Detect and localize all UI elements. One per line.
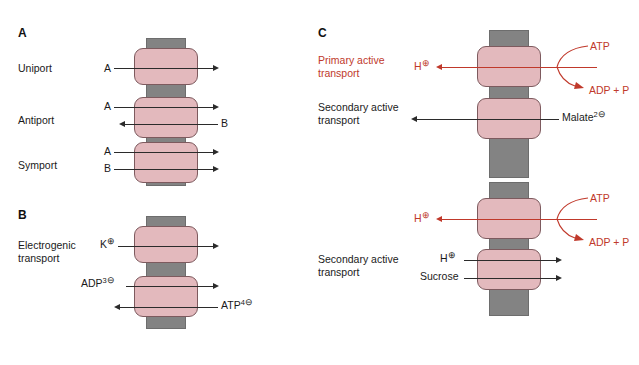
panel-c-label-primary-active: Primary active transport	[318, 54, 385, 79]
transporter-symport	[134, 142, 198, 183]
species-label-atp-bottom: ATP	[590, 192, 610, 204]
species-label-adp: ADP3⊖	[81, 277, 115, 289]
panel-b-letter: B	[18, 208, 27, 222]
panel-b-label-electrogenic: Electrogenic transport	[18, 239, 76, 264]
arrowhead-malate-out	[411, 116, 417, 122]
panel-c-label-secondary-active-top: Secondary active transport	[318, 101, 399, 126]
transporter-adp-atp	[134, 276, 198, 317]
flow-line-symport-a	[114, 152, 213, 153]
arrowhead-atp-out	[114, 304, 120, 310]
transport-mechanisms-figure: A Uniport A Antiport A B Symport A B B E…	[0, 0, 639, 365]
flow-line-antiport-a	[114, 107, 213, 108]
arrowhead-proton-bottom-out	[436, 216, 442, 222]
arrowhead-symport-a-out	[213, 149, 219, 155]
species-label-proton-bottom: H⊕	[414, 212, 430, 224]
species-label-sucrose: Sucrose	[420, 270, 459, 282]
species-label-atp: ATP4⊖	[221, 299, 253, 311]
arrowhead-proton-top-out	[436, 64, 442, 70]
transporter-sucrose-symport	[477, 249, 541, 290]
arrowhead-adp-out	[213, 283, 219, 289]
species-label-symport-a: A	[104, 145, 111, 157]
flow-line-antiport-b	[125, 124, 218, 125]
charge-k: ⊕	[107, 236, 115, 246]
arrowhead-uniport-out	[213, 65, 219, 71]
species-label-antiport-a: A	[104, 100, 111, 112]
panel-a-letter: A	[18, 26, 27, 40]
flow-line-sucrose	[464, 278, 556, 279]
species-h-top-text: H	[414, 60, 422, 72]
flow-line-symport-b	[114, 169, 213, 170]
arrowhead-antiport-b-out	[119, 121, 125, 127]
transporter-antiport	[134, 97, 198, 138]
flow-line-uniport	[114, 68, 213, 69]
panel-c-label-secondary-active-bottom: Secondary active transport	[318, 253, 399, 278]
flow-line-atp	[120, 307, 218, 308]
species-label-potassium: K⊕	[100, 238, 115, 250]
species-malate-text: Malate	[562, 111, 594, 123]
species-atp-text: ATP	[221, 299, 241, 311]
arrowhead-potassium-out	[213, 243, 219, 249]
panel-a-label-uniport: Uniport	[18, 62, 52, 75]
species-h-bottom-text: H	[414, 212, 422, 224]
flow-line-potassium	[118, 246, 213, 247]
species-label-malate: Malate2⊖	[562, 111, 606, 123]
arrowhead-antiport-a-out	[213, 104, 219, 110]
transporter-potassium	[134, 226, 198, 263]
species-label-proton-symport: H⊕	[440, 252, 456, 264]
transporter-uniport	[134, 48, 198, 85]
charge-adp: ⊖	[107, 275, 115, 285]
flow-line-adp	[126, 286, 213, 287]
species-label-adp-top: ADP + P	[589, 84, 629, 96]
arrowhead-symport-b-out	[213, 166, 219, 172]
charge-malate: ⊖	[598, 109, 606, 119]
species-label-uniport-a: A	[104, 62, 111, 74]
species-label-antiport-b: B	[221, 117, 228, 129]
arrowhead-sucrose-out	[556, 275, 562, 281]
charge-h-symport: ⊕	[448, 250, 456, 260]
flow-line-proton-symport	[464, 260, 556, 261]
panel-a-label-antiport: Antiport	[18, 114, 54, 127]
arrowhead-proton-symport-out	[556, 257, 562, 263]
species-label-adp-bottom: ADP + P	[589, 236, 629, 248]
species-h-symport-text: H	[440, 252, 448, 264]
species-label-atp-top: ATP	[590, 40, 610, 52]
panel-c-letter: C	[318, 26, 327, 40]
charge-h-top: ⊕	[422, 58, 430, 68]
charge-h-bottom: ⊕	[422, 210, 430, 220]
flow-line-malate	[417, 119, 559, 120]
panel-a-label-symport: Symport	[18, 159, 57, 172]
species-k-text: K	[100, 238, 107, 250]
species-label-symport-b: B	[104, 162, 111, 174]
species-label-proton-top: H⊕	[414, 60, 430, 72]
charge-atp: ⊖	[245, 297, 253, 307]
species-adp-text: ADP	[81, 277, 103, 289]
